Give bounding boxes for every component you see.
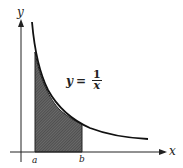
equation-fraction: 1 x: [92, 70, 102, 91]
y-axis-label: y: [17, 5, 24, 19]
tick-label-a: a: [32, 155, 37, 165]
x-axis-arrow-icon: [159, 149, 167, 155]
equation-denominator: x: [94, 81, 101, 91]
equation-lhs: y: [66, 74, 73, 88]
equation-label: y = 1 x: [66, 70, 102, 91]
y-axis-arrow-icon: [18, 19, 24, 27]
shaded-area: [35, 52, 82, 152]
equation-equals: =: [76, 74, 86, 88]
tick-label-b: b: [79, 154, 85, 164]
x-axis-label: x: [169, 144, 176, 158]
